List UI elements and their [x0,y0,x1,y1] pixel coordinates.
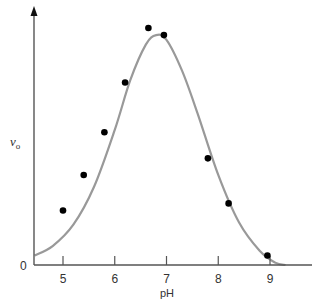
y-axis-label: vo [10,134,21,151]
x-tick-label: 5 [60,272,67,286]
data-point [101,129,108,136]
x-tick-label: 9 [267,272,274,286]
y-zero-label: 0 [20,259,27,273]
data-point [60,207,67,214]
data-point [205,155,212,162]
data-point [161,32,168,39]
data-point [80,172,87,179]
fitted-curve [35,35,286,265]
x-tick-label: 6 [111,272,118,286]
data-point [225,200,232,207]
data-point [122,79,129,86]
x-tick-label: 8 [215,272,222,286]
curve-path [35,35,286,265]
x-tick-label: 7 [163,272,170,286]
x-ticks: 56789 [60,256,274,286]
data-point [145,25,152,32]
data-point [264,252,271,259]
x-axis-label: pH [160,287,174,299]
y-axis-arrow-icon [31,6,38,16]
chart: 56789 0 vo pH [0,0,319,306]
